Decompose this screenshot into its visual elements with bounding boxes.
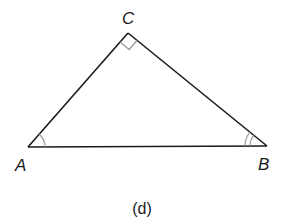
side-ac bbox=[28, 33, 128, 147]
angle-arc-b-inner bbox=[250, 135, 254, 146]
vertex-label-a: A bbox=[14, 156, 26, 175]
right-angle-marker-c bbox=[120, 41, 137, 50]
side-ab bbox=[28, 146, 267, 147]
angle-arc-a bbox=[39, 134, 45, 147]
vertex-label-c: C bbox=[122, 9, 135, 28]
side-cb bbox=[128, 33, 267, 146]
vertex-label-b: B bbox=[258, 155, 269, 174]
angle-arc-b-outer bbox=[245, 132, 250, 146]
figure-caption: (d) bbox=[132, 200, 152, 217]
triangle-diagram: C A B (d) bbox=[0, 0, 290, 222]
